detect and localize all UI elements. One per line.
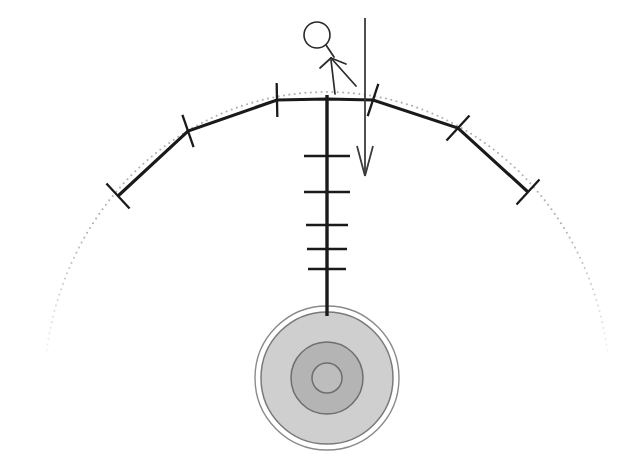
arc-dot — [206, 119, 208, 121]
arc-dot — [46, 349, 48, 351]
arc-dot — [385, 98, 387, 100]
arc-dot — [50, 327, 52, 329]
arc-dot — [569, 237, 571, 239]
arc-dot — [221, 113, 223, 115]
arc-dot — [83, 237, 85, 239]
arc-dot — [594, 294, 596, 296]
arc-dot — [566, 232, 568, 234]
arc-dot — [98, 213, 100, 215]
arc-dot — [288, 94, 290, 96]
arc-dot — [47, 344, 49, 346]
arc-dot — [251, 102, 253, 104]
arc-dot — [605, 344, 607, 346]
arc-dot — [348, 92, 350, 94]
concentric-disc-weight — [255, 306, 399, 450]
arc-dot — [505, 159, 507, 161]
arc-dot — [595, 299, 597, 301]
arc-dot — [246, 103, 248, 105]
arc-dot — [342, 91, 344, 93]
arc-dot — [95, 217, 97, 219]
arc-dot — [550, 208, 552, 210]
arc-dot — [315, 91, 317, 93]
arc-dot — [119, 186, 121, 188]
arc-dot — [406, 103, 408, 105]
arc-dot — [554, 213, 556, 215]
arc-dot — [581, 262, 583, 264]
arc-dot — [86, 232, 88, 234]
arc-dot — [123, 182, 125, 184]
arc-dot — [584, 267, 586, 269]
arc-dot — [241, 105, 243, 107]
arc-dot — [557, 217, 559, 219]
arc-dot — [231, 108, 233, 110]
arc-dot — [484, 142, 486, 144]
arc-dot — [544, 199, 546, 201]
arc-dot — [603, 332, 605, 334]
arc-dot — [600, 316, 602, 318]
arc-dot — [47, 338, 49, 340]
arc-dot — [522, 174, 524, 176]
arc-dot — [401, 102, 403, 104]
arc-dot — [588, 278, 590, 280]
arc-dot — [89, 227, 91, 229]
arc-dot — [525, 178, 527, 180]
arc-dot — [514, 166, 516, 168]
arc-dot — [426, 110, 428, 112]
arc-dot — [590, 283, 592, 285]
arc-dot — [151, 155, 153, 157]
arc-dot — [537, 191, 539, 193]
arc-dot — [574, 247, 576, 249]
arc-dot — [262, 99, 264, 101]
arc-dot — [236, 107, 238, 109]
arc-dot — [53, 310, 55, 312]
arc-dot — [48, 332, 50, 334]
arc-dot — [58, 294, 60, 296]
arc-dot — [331, 91, 333, 93]
arc-dot — [92, 222, 94, 224]
arc-dot — [211, 117, 213, 119]
arc-dot — [68, 267, 70, 269]
arc-dot — [369, 94, 371, 96]
arc-dot — [586, 272, 588, 274]
arc-dot — [592, 288, 594, 290]
arc-dot — [518, 170, 520, 172]
arc-dot — [358, 93, 360, 95]
arc-dot — [380, 96, 382, 98]
arc-dot — [390, 99, 392, 101]
arc-dot — [73, 257, 75, 259]
arc-dot — [411, 105, 413, 107]
arc-dot — [78, 247, 80, 249]
arc-dot — [75, 252, 77, 254]
arc-dot — [216, 115, 218, 117]
arc-dot — [108, 199, 110, 201]
arc-dot — [66, 272, 68, 274]
arc-dot — [283, 94, 285, 96]
arc-dot — [112, 195, 114, 197]
arc-dot — [126, 178, 128, 180]
arc-dot — [272, 96, 274, 98]
arc-dot — [577, 252, 579, 254]
arc-dot — [267, 98, 269, 100]
arc-dot — [475, 136, 477, 138]
arc-dot — [105, 204, 107, 206]
arc-dot — [299, 92, 301, 94]
diagram-canvas: Deflected curved beam with hanging conce… — [0, 0, 633, 471]
arc-dot — [579, 257, 581, 259]
arc-dot — [304, 92, 306, 94]
arc-dot — [256, 100, 258, 102]
arc-dot — [571, 242, 573, 244]
arc-dot — [310, 91, 312, 93]
arc-dot — [493, 148, 495, 150]
arc-dot — [416, 107, 418, 109]
disc-ring-inner — [312, 363, 342, 393]
arc-dot — [173, 139, 175, 141]
arc-dot — [138, 166, 140, 168]
arc-dot — [60, 288, 62, 290]
arc-dot — [597, 305, 599, 307]
arc-dot — [159, 148, 161, 150]
diagram-svg: Deflected curved beam with hanging conce… — [0, 0, 633, 471]
arc-dot — [529, 182, 531, 184]
arc-dot — [326, 91, 328, 93]
arc-dot — [563, 227, 565, 229]
arc-dot — [62, 283, 64, 285]
